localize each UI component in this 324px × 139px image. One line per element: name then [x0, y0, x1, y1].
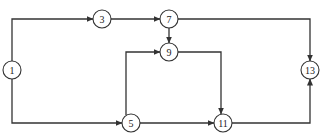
node-11-label: 11	[218, 118, 228, 129]
node-7-label: 7	[167, 14, 172, 25]
node-3: 3	[93, 10, 111, 28]
node-1: 1	[3, 61, 21, 79]
edge-1-5	[12, 79, 122, 123]
node-5: 5	[122, 114, 140, 132]
edge-7-13	[178, 19, 310, 61]
edge-5-9	[126, 52, 160, 115]
node-9-label: 9	[167, 47, 172, 58]
edge-1-3	[12, 19, 93, 61]
node-7: 7	[160, 10, 178, 28]
edge-9-11	[178, 52, 221, 114]
node-13-label: 13	[305, 65, 315, 76]
edge-11-13	[232, 79, 310, 123]
network-diagram: 1 3 7 9 5 11 13	[0, 0, 324, 139]
node-11: 11	[214, 114, 232, 132]
node-9: 9	[160, 43, 178, 61]
node-1-label: 1	[10, 65, 15, 76]
node-5-label: 5	[129, 118, 134, 129]
node-3-label: 3	[100, 14, 105, 25]
node-13: 13	[301, 61, 319, 79]
